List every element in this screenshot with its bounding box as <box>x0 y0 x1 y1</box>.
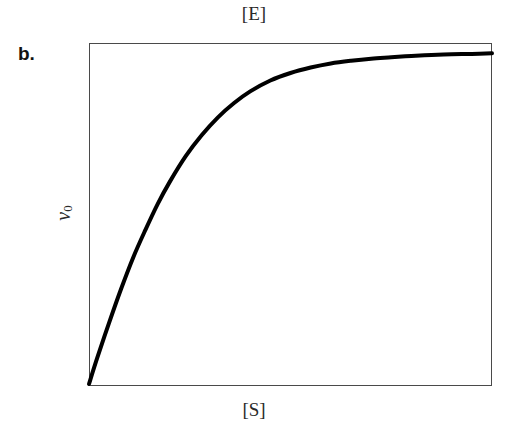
top-axis-label: [E] <box>0 4 508 23</box>
bottom-axis-label: [S] <box>0 400 508 419</box>
y-axis-label: v0 <box>38 190 88 236</box>
saturation-curve-svg <box>89 43 492 386</box>
panel-letter: b. <box>18 44 35 63</box>
y-axis-label-main: v <box>53 212 73 221</box>
y-axis-label-subscript: 0 <box>61 205 74 212</box>
saturation-curve <box>89 53 492 384</box>
plot-area <box>89 43 492 386</box>
figure-root: b. [E] v0 [S] <box>0 0 508 429</box>
